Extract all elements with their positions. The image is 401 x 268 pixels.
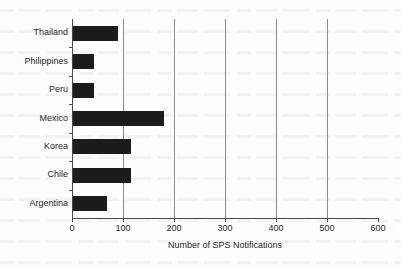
gridline-500 bbox=[327, 19, 328, 218]
category-label-thailand: Thailand bbox=[33, 28, 68, 37]
x-tick-100 bbox=[123, 218, 124, 222]
x-tick-600 bbox=[378, 218, 379, 222]
bar-argentina bbox=[73, 196, 107, 211]
bar-thailand bbox=[73, 26, 118, 41]
x-tick-0 bbox=[72, 218, 73, 222]
bar-mexico bbox=[73, 111, 164, 126]
x-axis-title: Number of SPS Notifications bbox=[72, 240, 378, 250]
x-tick-400 bbox=[276, 218, 277, 222]
category-label-chile: Chile bbox=[47, 170, 68, 179]
category-label-argentina: Argentina bbox=[29, 199, 68, 208]
x-tick-300 bbox=[225, 218, 226, 222]
plot-area bbox=[72, 19, 378, 218]
category-label-philippines: Philippines bbox=[24, 57, 68, 66]
x-tick-label-300: 300 bbox=[217, 224, 232, 233]
bar-philippines bbox=[73, 54, 94, 69]
gridline-300 bbox=[225, 19, 226, 218]
y-tick-5 bbox=[69, 190, 73, 191]
x-tick-label-100: 100 bbox=[115, 224, 130, 233]
bar-korea bbox=[73, 139, 131, 154]
x-tick-label-600: 600 bbox=[370, 224, 385, 233]
category-label-mexico: Mexico bbox=[39, 114, 68, 123]
x-tick-label-0: 0 bbox=[69, 224, 74, 233]
bar-peru bbox=[73, 83, 94, 98]
x-tick-200 bbox=[174, 218, 175, 222]
y-tick-4 bbox=[69, 161, 73, 162]
x-tick-label-500: 500 bbox=[319, 224, 334, 233]
gridline-400 bbox=[276, 19, 277, 218]
y-tick-3 bbox=[69, 133, 73, 134]
category-label-korea: Korea bbox=[44, 142, 68, 151]
sps-notifications-bar-chart: 0100200300400500600 ThailandPhilippinesP… bbox=[0, 0, 401, 268]
x-tick-500 bbox=[327, 218, 328, 222]
x-tick-label-200: 200 bbox=[166, 224, 181, 233]
gridline-200 bbox=[174, 19, 175, 218]
category-label-peru: Peru bbox=[49, 85, 68, 94]
bar-chile bbox=[73, 168, 131, 183]
x-tick-label-400: 400 bbox=[268, 224, 283, 233]
y-tick-0 bbox=[69, 47, 73, 48]
category-label-group: ThailandPhilippinesPeruMexicoKoreaChileA… bbox=[0, 0, 68, 268]
y-tick-2 bbox=[69, 104, 73, 105]
y-tick-1 bbox=[69, 76, 73, 77]
